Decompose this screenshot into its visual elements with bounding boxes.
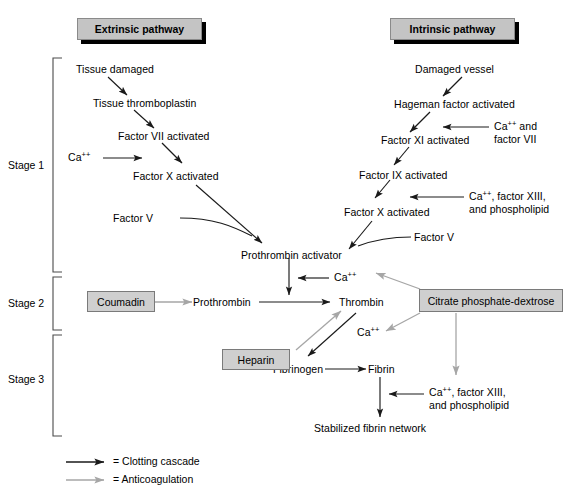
- node-fibrin: Fibrin: [368, 363, 395, 375]
- box-heparin-label: Heparin: [238, 354, 275, 366]
- stage-label-3: Stage 3: [8, 373, 44, 385]
- node-factor-vii-activated: Factor VII activated: [118, 130, 209, 142]
- node-prothrombin-activator: Prothrombin activator: [241, 249, 342, 261]
- banner-extrinsic-pathway: Extrinsic pathway: [77, 18, 202, 40]
- node-calcium-and-factor-vii: Ca++ andfactor VII: [494, 120, 537, 145]
- node-hageman-factor-activated: Hageman factor activated: [394, 98, 515, 110]
- node-factor-ix-activated: Factor IX activated: [359, 169, 448, 181]
- legend-arrows: [66, 462, 104, 480]
- stage-brackets: [53, 58, 62, 436]
- node-tissue-damaged: Tissue damaged: [76, 63, 154, 75]
- coagulation-cascade-figure: Extrinsic pathway Intrinsic pathway Stag…: [0, 0, 567, 502]
- node-calcium-factor-xiii-phospholipid-lower: Ca++, factor XIII,and phospholipid: [429, 386, 509, 411]
- legend-item-clotting-cascade: = Clotting cascade: [113, 455, 200, 467]
- stage-label-1: Stage 1: [8, 159, 44, 171]
- node-tissue-thromboplastin: Tissue thromboplastin: [93, 97, 196, 109]
- node-thrombin: Thrombin: [339, 296, 384, 308]
- box-coumadin[interactable]: Coumadin: [87, 291, 155, 312]
- node-factor-v-intrinsic: Factor V: [414, 231, 454, 243]
- node-factor-x-activated-intrinsic: Factor X activated: [344, 206, 430, 218]
- node-calcium-factor-xiii-phospholipid-upper: Ca++, factor XIII,and phospholipid: [469, 190, 549, 215]
- node-calcium-stage2: Ca++: [334, 271, 356, 283]
- banner-extrinsic-label: Extrinsic pathway: [95, 23, 184, 35]
- node-factor-xi-activated: Factor XI activated: [381, 134, 470, 146]
- node-prothrombin: Prothrombin: [193, 296, 251, 308]
- anticoagulation-arrows: [155, 273, 456, 375]
- node-factor-x-activated-extrinsic: Factor X activated: [133, 170, 219, 182]
- node-factor-v-extrinsic: Factor V: [113, 212, 153, 224]
- banner-intrinsic-label: Intrinsic pathway: [410, 23, 496, 35]
- stage-label-2: Stage 2: [8, 297, 44, 309]
- box-coumadin-label: Coumadin: [97, 296, 145, 308]
- node-calcium-extrinsic: Ca++: [68, 151, 90, 163]
- node-calcium-stage3: Ca++: [357, 326, 379, 338]
- node-stabilized-fibrin-network: Stabilized fibrin network: [314, 422, 426, 434]
- box-heparin[interactable]: Heparin: [222, 349, 290, 370]
- box-citrate-phosphate-dextrose[interactable]: Citrate phosphate-dextrose: [419, 289, 563, 312]
- banner-intrinsic-pathway: Intrinsic pathway: [390, 18, 515, 40]
- legend-item-anticoagulation: = Anticoagulation: [113, 473, 193, 485]
- node-damaged-vessel: Damaged vessel: [415, 63, 494, 75]
- box-citrate-phosphate-dextrose-label: Citrate phosphate-dextrose: [428, 295, 555, 307]
